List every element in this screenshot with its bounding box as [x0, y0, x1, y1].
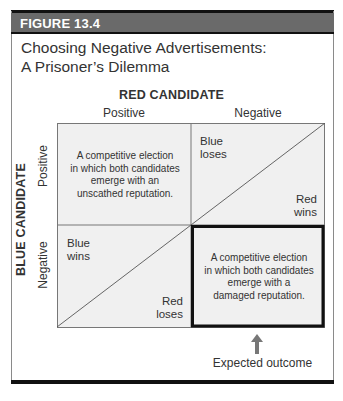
- payoff-matrix: A competitive election in which both can…: [57, 123, 325, 328]
- row-label-positive: Positive: [36, 136, 50, 196]
- outcome-text: Blue: [200, 135, 227, 148]
- cell-text-line: unscathed reputation.: [61, 188, 189, 201]
- cell-text-line: A competitive election: [195, 252, 323, 265]
- bottom-rule: [11, 380, 334, 384]
- red-wins-label: Red wins: [294, 193, 317, 219]
- column-label-negative: Negative: [191, 106, 325, 120]
- outcome-text: loses: [153, 308, 183, 321]
- figure-title-line2: A Prisoner’s Dilemma: [21, 57, 267, 76]
- figure-header: FIGURE 13.4: [11, 13, 334, 34]
- outcome-text: loses: [200, 148, 227, 161]
- cell-text-line: A competitive election: [61, 150, 189, 163]
- cell-text-line: emerge with an: [61, 175, 189, 188]
- outcome-text: Red: [153, 295, 183, 308]
- column-label-positive: Positive: [57, 106, 191, 120]
- cell-text-line: in which both candidates: [61, 163, 189, 176]
- outcome-text: wins: [67, 250, 90, 263]
- row-label-negative: Negative: [36, 230, 50, 300]
- blue-loses-label: Blue loses: [200, 135, 227, 161]
- column-player-label: RED CANDIDATE: [0, 88, 343, 102]
- expected-outcome-label: Expected outcome: [200, 356, 325, 370]
- figure-title-line1: Choosing Negative Advertisements:: [21, 38, 267, 57]
- figure-label: FIGURE 13.4: [20, 16, 100, 31]
- cell-positive-positive: A competitive election in which both can…: [61, 150, 189, 200]
- figure-title: Choosing Negative Advertisements: A Pris…: [21, 38, 267, 76]
- outcome-text: Blue: [67, 237, 90, 250]
- cell-text-line: emerge with a: [195, 277, 323, 290]
- outcome-text: Red: [294, 193, 317, 206]
- row-player-label: BLUE CANDIDATE: [14, 166, 28, 276]
- red-loses-label: Red loses: [153, 295, 183, 321]
- outcome-text: wins: [294, 206, 317, 219]
- blue-wins-label: Blue wins: [67, 237, 90, 263]
- cell-text-line: in which both candidates: [195, 265, 323, 278]
- cell-negative-negative: A competitive election in which both can…: [195, 252, 323, 302]
- arrow-up-icon: [250, 334, 264, 354]
- cell-text-line: damaged reputation.: [195, 290, 323, 303]
